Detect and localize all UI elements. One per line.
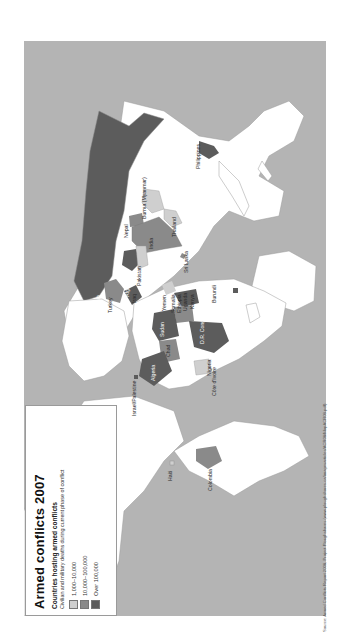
label-iraq: Iraq — [132, 294, 137, 303]
legend-title: Armed conflicts 2007 — [32, 414, 47, 609]
label-nepal: Nepal — [124, 224, 129, 238]
label-burma: Burma (Myanmar) — [142, 177, 147, 219]
label-turkey: Turkey — [108, 297, 113, 313]
legend-item-low: 1,000–10,000 — [69, 414, 78, 609]
swatch-low-icon — [69, 600, 78, 609]
europe-land — [62, 299, 129, 381]
legend-label-high: Over 100,000 — [93, 562, 99, 596]
label-pakistan: Pakistan — [137, 266, 142, 286]
label-philippines: Philippines — [196, 144, 201, 169]
label-haiti: Haiti — [168, 471, 173, 481]
south-america-land — [174, 421, 309, 496]
label-cotedivoire: Côte d'Ivoire — [212, 367, 217, 396]
label-afghanistan: Afghanistan — [125, 270, 130, 297]
label-chad: Chad — [166, 345, 171, 357]
legend-description: Civilian and military deaths during curr… — [59, 414, 65, 609]
label-yemen: Yemen — [162, 295, 167, 311]
country-haiti — [170, 461, 174, 465]
label-israel-palestine: Israel/Palestine — [132, 381, 137, 416]
legend-label-medium: 10,000–100,000 — [82, 556, 88, 596]
label-algeria: Algeria — [151, 365, 156, 381]
label-russia: Russia — [96, 295, 101, 311]
swatch-medium-icon — [80, 600, 89, 609]
label-burundi: Burundi — [212, 285, 217, 303]
label-uganda: Uganda — [183, 293, 188, 311]
legend-item-high: Over 100,000 — [91, 414, 100, 609]
legend-item-medium: 10,000–100,000 — [80, 414, 89, 609]
country-burundi — [233, 288, 238, 293]
label-colombia: Colombia — [208, 469, 213, 491]
label-india: India — [149, 238, 154, 249]
label-kenya: Kenya — [190, 294, 195, 309]
label-thailand: Thailand — [172, 217, 177, 237]
map-legend: Armed conflicts 2007 Countries hosting a… — [25, 405, 117, 616]
country-israel-palestine — [134, 375, 138, 379]
label-srilanka: Sri Lanka — [184, 251, 189, 273]
source-credit: Source: Armed Conflicts Report 2008, Pro… — [322, 404, 327, 632]
swatch-high-icon — [91, 600, 100, 609]
label-sudan: Sudan — [160, 322, 165, 337]
legend-subtitle: Countries hosting armed conflicts — [51, 414, 58, 609]
label-drcongo: D.R. Congo — [200, 317, 205, 344]
legend-label-low: 1,000–10,000 — [71, 562, 77, 596]
